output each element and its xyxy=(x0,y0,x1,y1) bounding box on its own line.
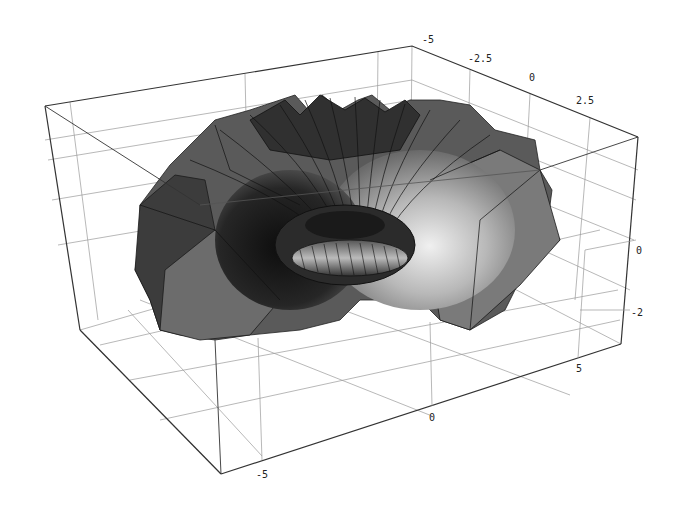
y-tick-label: 0 xyxy=(529,72,535,83)
y-tick-label: 2.5 xyxy=(576,95,594,106)
x-tick-label: -5 xyxy=(256,469,268,480)
y-tick-label: -2.5 xyxy=(468,53,492,64)
z-axis-ticks: 0 -2 xyxy=(631,245,643,318)
x-axis-ticks: -5 0 5 xyxy=(256,363,582,480)
y-tick-label: -5 xyxy=(422,34,434,45)
z-tick-label: 0 xyxy=(636,245,642,256)
z-tick-label: -2 xyxy=(631,307,643,318)
y-axis-ticks: -5 -2.5 0 2.5 xyxy=(422,34,594,106)
x-tick-label: 5 xyxy=(576,363,582,374)
x-tick-label: 0 xyxy=(429,412,435,423)
surface-plot-3d: -5 0 5 -5 -2.5 0 2.5 0 -2 xyxy=(0,0,689,519)
torus-tube xyxy=(292,240,408,276)
parametric-surface xyxy=(135,95,560,340)
